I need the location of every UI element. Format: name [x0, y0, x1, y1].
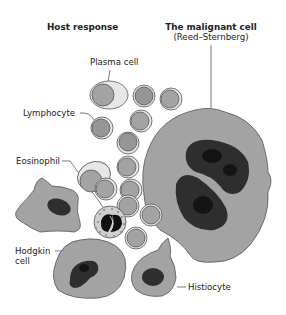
lymphocyte: [140, 204, 162, 226]
lymphocyte: [160, 88, 182, 110]
reed-sternberg-cell: [143, 108, 271, 262]
lymphocyte-leader: [80, 113, 94, 120]
lymphocyte: [130, 110, 152, 132]
hodgkin-cell-label-line1: Hodgkin: [15, 246, 50, 256]
lymphocyte: [95, 178, 117, 200]
hodgkin-cell: [53, 239, 125, 298]
plasma-cell-label: Plasma cell: [90, 57, 138, 67]
eosinophil-label: Eosinophil: [16, 156, 60, 166]
malignant-cell-subtitle: (Reed–Sternberg): [165, 32, 257, 42]
lymphocyte: [117, 132, 139, 154]
host-response-heading: Host response: [47, 22, 118, 32]
histiocyte-label: Histiocyte: [188, 282, 231, 292]
malignant-cell-heading: The malignant cell: [165, 22, 257, 32]
lymphocyte-label: Lymphocyte: [23, 108, 75, 118]
lymphocyte: [91, 117, 113, 139]
eosinophil: [94, 206, 126, 238]
lymphocyte: [133, 85, 155, 107]
lymphocyte: [125, 227, 147, 249]
hodgkin-cell-upper: [16, 178, 81, 232]
hodgkin-cell-label-line2: cell: [15, 256, 30, 266]
plasma-cell-leader: [108, 70, 110, 82]
plasma-cell: [90, 81, 128, 109]
lymphocyte: [117, 156, 139, 178]
